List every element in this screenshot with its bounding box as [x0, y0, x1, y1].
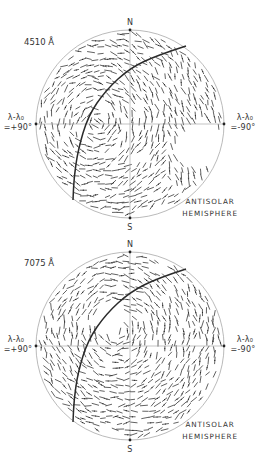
north-label: N: [127, 240, 133, 249]
east-marker: [223, 345, 226, 348]
left-longitude-label-1: λ-λ₀: [8, 335, 24, 344]
right-longitude-label-2: =-90°: [231, 123, 256, 132]
left-longitude-label-2: =+90°: [4, 345, 33, 354]
south-label: S: [127, 445, 132, 454]
panel-4510: N S 4510 Å λ-λ₀ =+90° λ-λ₀ =-90° ANTISOL…: [4, 18, 256, 232]
caption-hemisphere: HEMISPHERE: [182, 432, 238, 441]
caption-antisolar: ANTISOLAR: [185, 420, 234, 429]
left-longitude-label-2: =+90°: [4, 123, 33, 132]
west-marker: [35, 123, 38, 126]
north-pole-marker: [129, 29, 132, 32]
west-marker: [35, 345, 38, 348]
caption-hemisphere: HEMISPHERE: [182, 209, 238, 218]
left-longitude-label-1: λ-λ₀: [8, 113, 24, 122]
right-longitude-label-1: λ-λ₀: [237, 113, 253, 122]
right-longitude-label-2: =-90°: [231, 345, 256, 354]
north-pole-marker: [129, 251, 132, 254]
polarization-maps-figure: N S 4510 Å λ-λ₀ =+90° λ-λ₀ =-90° ANTISOL…: [0, 0, 262, 468]
south-pole-marker: [129, 439, 132, 442]
north-label: N: [127, 18, 133, 27]
caption-antisolar: ANTISOLAR: [185, 197, 234, 206]
panel-7075: N S 7075 Å λ-λ₀ =+90° λ-λ₀ =-90° ANTISOL…: [4, 240, 256, 454]
polarization-vectors: [40, 32, 222, 216]
wavelength-label: 4510 Å: [24, 36, 54, 47]
solar-great-circle-arc: [73, 269, 186, 422]
right-longitude-label-1: λ-λ₀: [237, 335, 253, 344]
south-label: S: [127, 223, 132, 232]
east-marker: [223, 123, 226, 126]
south-pole-marker: [129, 217, 132, 220]
wavelength-label: 7075 Å: [24, 257, 54, 268]
